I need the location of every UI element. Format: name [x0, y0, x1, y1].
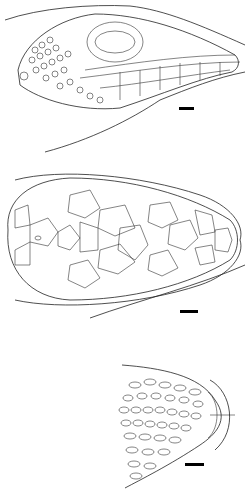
dorsal-head-view [0, 170, 245, 330]
scale-bar-lateral [179, 107, 194, 110]
scale-bar-dorsal [180, 310, 198, 313]
ventral-chin-view [0, 330, 245, 495]
lateral-head-view [0, 0, 245, 170]
scale-bar-ventral [185, 463, 204, 466]
